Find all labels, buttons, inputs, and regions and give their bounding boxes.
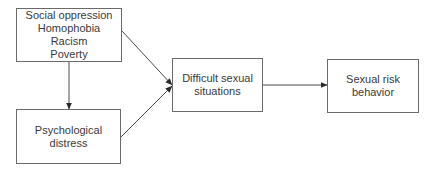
arrow-oppression-to-situations <box>122 31 172 85</box>
node-label-line: situations <box>194 85 240 98</box>
node-label-line: Poverty <box>50 48 87 61</box>
node-label-line: Homophobia <box>38 22 100 35</box>
node-label-line: Racism <box>51 35 88 48</box>
diagram-canvas: Social oppression Homophobia Racism Pove… <box>0 0 433 175</box>
node-psychological-distress: Psychological distress <box>16 109 121 164</box>
node-social-oppression: Social oppression Homophobia Racism Pove… <box>16 8 122 62</box>
node-label-line: Difficult sexual <box>182 72 253 85</box>
node-sexual-risk-behavior: Sexual risk behavior <box>327 59 419 113</box>
node-label-line: Psychological <box>35 124 102 137</box>
arrow-distress-to-situations <box>121 86 172 137</box>
node-label-line: Social oppression <box>26 9 113 22</box>
node-label-line: behavior <box>352 86 394 99</box>
node-label-line: Sexual risk <box>346 73 400 86</box>
node-label-line: distress <box>50 137 88 150</box>
node-difficult-sexual-situations: Difficult sexual situations <box>172 58 263 112</box>
